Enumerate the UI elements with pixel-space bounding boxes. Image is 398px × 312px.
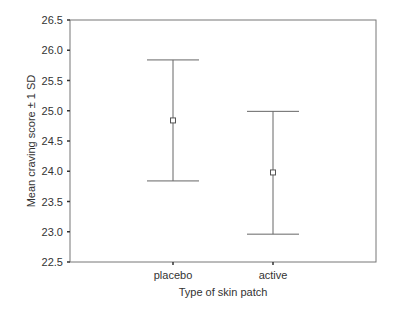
error-bar-active: [247, 111, 299, 234]
y-tick-label: 22.5: [42, 256, 63, 268]
y-tick-label: 26.0: [42, 44, 63, 56]
mean-marker: [271, 170, 276, 175]
y-tick-label: 23.0: [42, 226, 63, 238]
error-bars: [147, 60, 299, 234]
error-bar-placebo: [147, 60, 199, 181]
y-axis-title: Mean craving score ± 1 SD: [25, 75, 37, 208]
plot-frame: [70, 20, 376, 262]
x-tick-label-placebo: placebo: [154, 269, 193, 281]
y-tick-label: 24.5: [42, 135, 63, 147]
y-axis-ticks: 22.523.023.524.024.525.025.526.026.5: [42, 14, 70, 268]
y-tick-label: 26.5: [42, 14, 63, 26]
x-axis-title: Type of skin patch: [179, 286, 268, 298]
error-bar-chart: 22.523.023.524.024.525.025.526.026.5 pla…: [0, 0, 398, 312]
x-axis-ticks: placeboactive: [154, 262, 288, 281]
mean-marker: [171, 118, 176, 123]
y-tick-label: 25.0: [42, 105, 63, 117]
y-tick-label: 23.5: [42, 196, 63, 208]
y-tick-label: 25.5: [42, 75, 63, 87]
x-tick-label-active: active: [259, 269, 288, 281]
y-tick-label: 24.0: [42, 165, 63, 177]
